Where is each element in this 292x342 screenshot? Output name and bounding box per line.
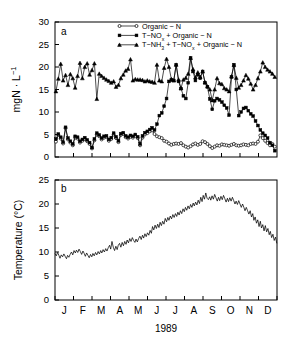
data-point [225,107,228,110]
data-point [112,80,116,84]
data-point [156,123,159,126]
series-2 [55,57,277,153]
data-point [177,78,181,82]
data-point [163,105,166,108]
data-point [86,139,89,142]
data-point [73,86,77,90]
legend-label: Organic − N [142,22,181,31]
data-point [199,142,202,145]
legend-label: T−NH3 + T−NOx + Organic − N [142,40,242,51]
data-point [196,71,200,75]
data-point [71,143,74,146]
data-point [91,146,94,149]
series-3 [54,56,277,102]
month-label: J [62,305,67,316]
data-point [215,76,219,80]
data-point [252,115,255,118]
y-tick-label: 0 [44,151,49,162]
data-point [220,101,223,104]
panel-b: 0510152025bTemperature (°C)JFMAMJJASOND1… [12,174,277,334]
data-point [160,112,163,115]
data-point [64,73,68,77]
data-point [88,73,92,77]
y-tick-label: 10 [38,246,49,257]
data-point [139,143,142,146]
data-point [165,57,169,61]
data-point [61,79,65,83]
data-point [76,74,80,78]
data-point [240,111,243,114]
data-point [256,140,259,143]
data-point [228,114,231,117]
data-point [208,98,211,101]
data-point [93,138,96,141]
data-point [78,61,82,65]
data-point [56,77,60,81]
data-point [187,81,190,84]
data-point [266,137,269,140]
data-point [184,97,187,100]
y-tick-label: 5 [44,129,49,140]
temperature-line [55,193,277,259]
data-point [165,97,168,100]
data-point [141,134,144,137]
y-tick-label: 30 [38,16,49,27]
data-point [85,62,89,66]
data-point [239,83,243,87]
month-label: O [227,305,235,316]
data-point [135,34,138,37]
x-axis-title: 1989 [155,323,178,334]
data-point [118,34,121,37]
data-point [244,73,248,77]
y-tick-label: 20 [38,61,49,72]
data-point [254,120,257,123]
data-point [261,61,265,65]
month-label: D [264,305,271,316]
month-label: F [80,305,86,316]
data-point [62,141,65,144]
y-axis-title-b: Temperature (°C) [12,200,24,281]
data-point [66,83,70,87]
data-point [57,133,60,136]
month-label: A [116,305,123,316]
data-point [223,104,226,107]
data-point [95,97,99,101]
month-label: J [154,305,159,316]
data-point [76,136,79,139]
data-point [155,63,159,67]
data-point [153,129,156,132]
data-point [122,131,125,134]
data-point [158,114,161,117]
data-point [98,134,101,137]
figure-container: 051015202530amgN · L−1Organic − NT−NOx +… [0,0,292,342]
data-point [115,135,118,138]
data-point [167,65,171,69]
y-tick-label: 15 [38,222,49,233]
chart-svg: 051015202530amgN · L−1Organic − NT−NOx +… [0,0,292,342]
data-point [213,88,217,92]
data-point [254,83,258,87]
month-label: M [97,305,105,316]
data-point [117,139,120,142]
data-point [273,149,276,152]
y-tick-label: 5 [44,270,49,281]
data-point [88,141,91,144]
data-point [257,124,260,127]
y-axis-title-a: mgN · L−1 [9,67,23,113]
data-point [249,82,253,86]
data-point [112,132,115,135]
y-tick-label: 25 [38,174,49,185]
plot-frame [55,180,277,300]
data-point [67,137,70,140]
data-point [117,83,121,87]
data-point [121,73,125,77]
month-label: M [134,305,142,316]
month-label: N [246,305,253,316]
data-point [68,72,72,76]
data-point [211,108,214,111]
data-point [97,72,101,76]
data-point [251,88,255,92]
panel-a: 051015202530amgN · L−1Organic − NT−NOx +… [9,16,278,334]
data-point [194,79,197,82]
data-point [93,62,97,66]
